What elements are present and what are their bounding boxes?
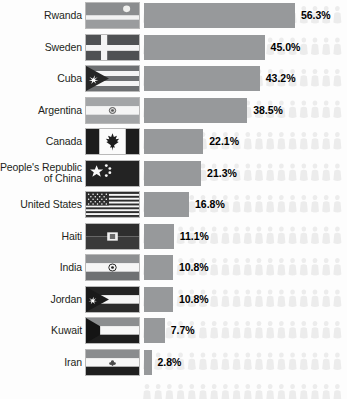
country-label: Iran [0, 357, 82, 369]
value-label: 45.0% [271, 41, 301, 53]
value-label: 16.8% [195, 198, 225, 210]
flag-china-icon [85, 160, 140, 187]
value-label: 10.8% [179, 261, 209, 273]
value-bar [144, 224, 174, 249]
chart-row: Kuwait 7.7% [0, 316, 347, 348]
country-label: Kuwait [0, 325, 82, 337]
flag-india-icon [85, 254, 140, 281]
flag-canada-icon [85, 128, 140, 155]
country-label: Jordan [0, 294, 82, 306]
flag-kuwait-icon [85, 317, 140, 344]
chart-row: Jordan 10.8% [0, 285, 347, 317]
value-label: 11.1% [180, 230, 209, 242]
value-label: 22.1% [209, 135, 239, 147]
value-bar [144, 192, 189, 217]
flag-rwanda-icon [85, 2, 140, 29]
chart-row: Argentina 38.5% [0, 96, 347, 128]
chart-row: Haiti 11.1% [0, 222, 347, 254]
value-bar [144, 129, 203, 154]
country-label: Canada [0, 136, 82, 148]
country-label: India [0, 262, 82, 274]
flag-argentina-icon [85, 97, 140, 124]
chart-row: Sweden 45.0% [0, 33, 347, 65]
chart-row: Canada 22.1% [0, 127, 347, 159]
country-label: Sweden [0, 42, 82, 54]
bar-chart: Rwanda 56.3%Sweden 45.0%Cuba 43.2%Argent… [0, 0, 347, 399]
chart-row: Iran 2.8% [0, 348, 347, 380]
value-label: 21.3% [207, 167, 237, 179]
country-label: Argentina [0, 105, 82, 117]
value-bar [144, 98, 247, 123]
country-label: Rwanda [0, 10, 82, 22]
country-label: United States [0, 199, 82, 211]
chart-row: People's Republicof China 21.3% [0, 159, 347, 191]
country-label: Haiti [0, 231, 82, 243]
chart-row: Rwanda 56.3% [0, 1, 347, 33]
value-label: 7.7% [171, 324, 195, 336]
chart-row: Cuba 43.2% [0, 64, 347, 96]
chart-row: India 10.8% [0, 253, 347, 285]
flag-jordan-icon [85, 286, 140, 313]
country-label: Cuba [0, 73, 82, 85]
value-bar [144, 161, 201, 186]
value-bar [144, 287, 173, 312]
value-bar [144, 318, 165, 343]
value-bar [144, 350, 152, 375]
flag-iran-icon [85, 349, 140, 376]
value-label: 2.8% [158, 356, 182, 368]
flag-united-states-icon [85, 191, 140, 218]
value-bar [144, 3, 295, 28]
country-label-line2: of China [0, 173, 82, 185]
value-label: 10.8% [179, 293, 209, 305]
value-bar [144, 66, 260, 91]
value-label: 43.2% [266, 72, 296, 84]
value-bar [144, 35, 265, 60]
value-label: 56.3% [301, 9, 331, 21]
flag-sweden-icon [85, 34, 140, 61]
value-label: 38.5% [253, 104, 283, 116]
value-bar [144, 255, 173, 280]
flag-cuba-icon [85, 65, 140, 92]
flag-haiti-icon [85, 223, 140, 250]
country-label: People's Republicof China [0, 162, 82, 185]
chart-row: United States 16.8% [0, 190, 347, 222]
